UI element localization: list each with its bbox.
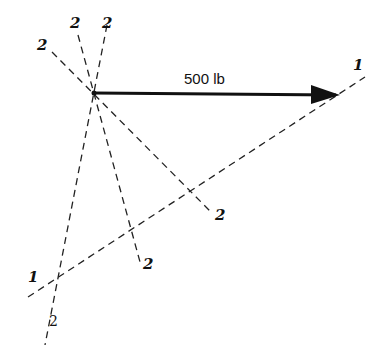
label-line2-top-middle: 2: [69, 14, 80, 32]
force-resolution-diagram: 500 lb 1 1 2 2 2 2 2 2: [0, 0, 378, 359]
line-2-middle: [78, 35, 140, 262]
label-line2-top-right: 2: [101, 14, 112, 32]
arrowhead-icon: [311, 85, 340, 104]
line-1: [28, 77, 365, 297]
label-line2-bottom-left: 2: [49, 313, 58, 329]
line-2-left: [45, 25, 107, 345]
force-arrow: [94, 93, 336, 95]
label-line1-left: 1: [28, 268, 38, 286]
label-line2-bottom-middle: 2: [142, 255, 153, 273]
label-line2-top-left: 2: [36, 36, 47, 54]
label-line1-right: 1: [353, 56, 363, 74]
force-label: 500 lb: [184, 70, 225, 87]
pivot-point: [92, 91, 97, 96]
label-line2-bottom-diagonal: 2: [214, 206, 225, 224]
